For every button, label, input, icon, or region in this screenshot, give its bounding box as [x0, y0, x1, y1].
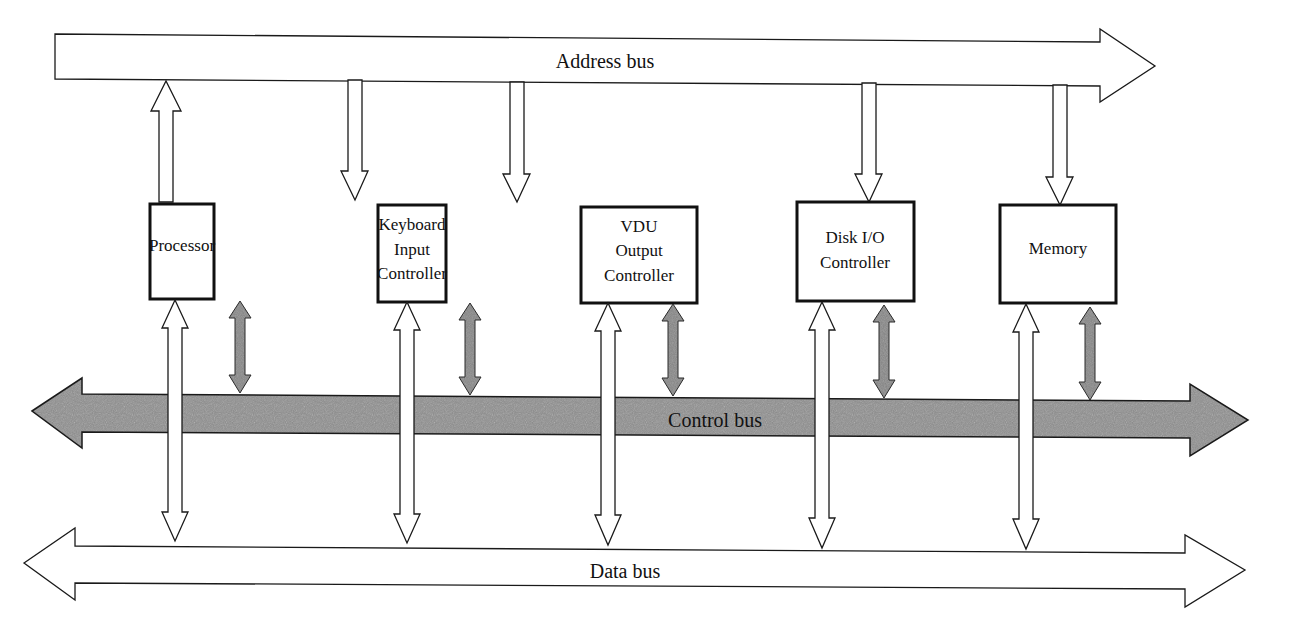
- address-bus-label: Address bus: [556, 50, 655, 72]
- vdu-label-line1: VDU: [621, 217, 658, 236]
- vdu-control-arrow-icon: [662, 304, 684, 396]
- control-bus-arrow: [32, 378, 1248, 456]
- processor-control-arrow-icon: [229, 301, 251, 393]
- disk-box: [797, 202, 914, 301]
- keyboard-label-line3: Controller: [377, 264, 447, 283]
- bus-architecture-diagram: Address bus Processor Keyboard Input Con…: [0, 0, 1292, 634]
- data-bus-label: Data bus: [590, 560, 661, 582]
- disk-label-line1: Disk I/O: [825, 228, 884, 247]
- keyboard-address-arrow-down-icon: [341, 80, 368, 200]
- control-links: [229, 301, 1101, 400]
- memory-control-arrow-icon: [1079, 307, 1101, 400]
- disk-address-arrow-down-icon: [855, 83, 882, 202]
- memory-label: Memory: [1029, 239, 1088, 258]
- disk-control-arrow-icon: [873, 305, 895, 398]
- processor-label: Processor: [149, 236, 215, 255]
- component-keyboard-input-controller: Keyboard Input Controller: [377, 205, 447, 302]
- control-bus-label: Control bus: [668, 409, 762, 431]
- address-bus: Address bus: [55, 29, 1155, 102]
- keyboard-label-line1: Keyboard: [378, 215, 446, 234]
- component-vdu-output-controller: VDU Output Controller: [581, 207, 697, 303]
- component-disk-io-controller: Disk I/O Controller: [797, 202, 914, 301]
- vdu-address-arrow-down-icon: [503, 82, 530, 202]
- memory-address-arrow-down-icon: [1046, 85, 1073, 205]
- address-links: [151, 80, 1073, 205]
- component-processor: Processor: [149, 204, 215, 299]
- data-bus: Data bus: [24, 528, 1245, 607]
- disk-label-line2: Controller: [820, 253, 890, 272]
- processor-address-arrow-up-icon: [151, 81, 181, 202]
- component-memory: Memory: [1000, 205, 1116, 303]
- keyboard-label-line2: Input: [394, 240, 430, 259]
- vdu-label-line2: Output: [615, 241, 663, 260]
- keyboard-control-arrow-icon: [459, 303, 481, 395]
- control-bus: Control bus: [32, 378, 1248, 456]
- vdu-label-line3: Controller: [604, 266, 674, 285]
